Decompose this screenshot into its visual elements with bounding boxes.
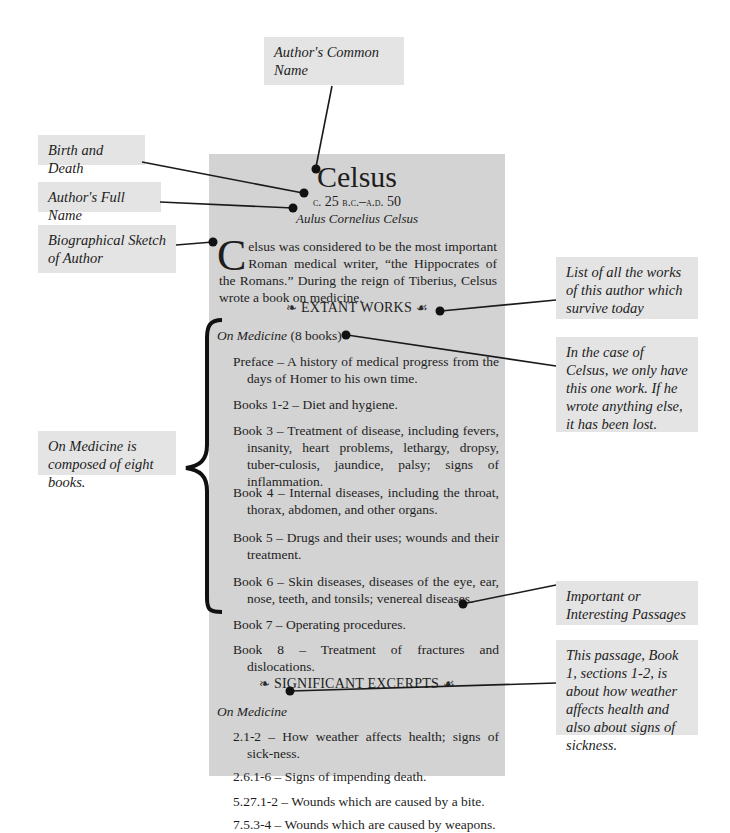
callout-extant-list: List of all the works of this author whi…: [556, 257, 698, 319]
work-book-count: (8 books): [287, 328, 342, 343]
dates-era-1: b.c.: [342, 195, 359, 209]
excerpt-entry: 5.27.1-2 – Wounds which are caused by a …: [233, 793, 499, 810]
birth-death-dates: c. 25 b.c.–a.d. 50: [209, 194, 505, 210]
callout-birth-death: Birth and Death: [38, 135, 145, 165]
dates-value-1: 25: [321, 194, 342, 209]
callout-full-name: Author's Full Name: [38, 182, 161, 212]
excerpt-entry: 2.1-2 – How weather affects health; sign…: [233, 728, 499, 762]
excerpt-entry: 7.5.3-4 – Wounds which are caused by wea…: [233, 816, 499, 833]
ornament-left-icon: ❧: [259, 676, 270, 691]
callout-one-work: In the case of Celsus, we only have this…: [556, 337, 698, 432]
excerpt-entry: 2.6.1-6 – Signs of impending death.: [233, 768, 499, 785]
work-title-name: On Medicine: [217, 328, 287, 343]
book-entry: Preface – A history of medical progress …: [233, 353, 499, 387]
ornament-right-icon: ☙: [416, 300, 428, 315]
biographical-sketch: Celsus was considered to be the most imp…: [219, 238, 497, 306]
dates-value-2: 50: [384, 194, 402, 209]
work-title: On Medicine (8 books): [217, 328, 342, 344]
book-entry: Books 1-2 – Diet and hygiene.: [233, 396, 499, 413]
excerpts-work-title: On Medicine: [217, 704, 287, 720]
drop-cap: C: [217, 238, 246, 274]
callout-common-name: Author's Common Name: [264, 37, 404, 85]
callout-passages: Important or Interesting Passages: [556, 581, 698, 625]
ornament-left-icon: ❧: [286, 300, 297, 315]
callout-bio-sketch: Biographical Sketch of Author: [38, 225, 176, 273]
significant-excerpts-heading: ❧ SIGNIFICANT EXCERPTS ☙: [209, 676, 505, 692]
author-common-name: Celsus: [209, 160, 505, 194]
excerpts-work-name: On Medicine: [217, 704, 287, 719]
significant-excerpts-label: SIGNIFICANT EXCERPTS: [274, 676, 439, 691]
ornament-right-icon: ☙: [443, 676, 455, 691]
book-entry: Book 5 – Drugs and their uses; wounds an…: [233, 529, 499, 563]
book-entry: Book 7 – Operating procedures.: [233, 616, 499, 633]
book-entry: Book 6 – Skin diseases, diseases of the …: [233, 573, 499, 607]
callout-eight-books: On Medicine is composed of eight books.: [38, 431, 176, 475]
callout-passage-note: This passage, Book 1, sections 1-2, is a…: [556, 640, 698, 735]
author-entry-panel: Celsus c. 25 b.c.–a.d. 50 Aulus Corneliu…: [209, 154, 505, 776]
dates-separator: –: [359, 194, 366, 209]
book-entry: Book 4 – Internal diseases, including th…: [233, 484, 499, 518]
extant-works-label: EXTANT WORKS: [301, 300, 412, 315]
author-full-name: Aulus Cornelius Celsus: [209, 211, 505, 227]
dates-era-2: a.d.: [366, 195, 384, 209]
book-entry: Book 8 – Treatment of fractures and disl…: [233, 641, 499, 675]
bio-text: elsus was considered to be the most impo…: [219, 239, 497, 305]
book-entry: Book 3 – Treatment of disease, including…: [233, 422, 499, 490]
extant-works-heading: ❧ EXTANT WORKS ☙: [209, 300, 505, 316]
